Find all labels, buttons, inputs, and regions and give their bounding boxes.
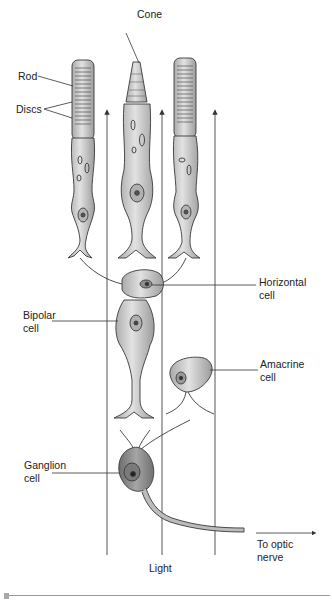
label-amacrine-cell-2: cell [260,371,276,383]
label-ganglion-cell-2: cell [24,472,40,484]
retina-cell-diagram [0,0,332,600]
ganglion-cell [119,420,244,532]
label-light: Light [149,562,172,574]
rod-cell [68,60,95,258]
label-discs: Discs [16,103,42,115]
label-bipolar-cell-1: Bipolar [23,309,56,321]
horizontal-cell [80,258,186,298]
bipolar-cell [114,300,154,418]
label-horizontal-cell-2: cell [259,289,275,301]
cone-cell [118,62,156,258]
label-rod: Rod [18,70,37,82]
label-amacrine-cell-1: Amacrine [260,358,304,370]
label-bipolar-cell-2: cell [23,322,39,334]
divider-marker [4,593,9,599]
rod-cell-right [168,58,200,258]
label-to-optic-nerve-1: To optic [257,538,293,550]
label-horizontal-cell-1: Horizontal [259,276,306,288]
label-cone: Cone [137,8,162,20]
bottom-divider [4,595,330,596]
label-ganglion-cell-1: Ganglion [24,459,66,471]
label-to-optic-nerve-2: nerve [257,551,283,563]
amacrine-cell [166,357,214,414]
